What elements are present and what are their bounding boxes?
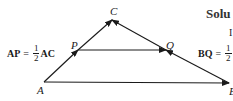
eq-bq-fraction: 1 2 (225, 44, 232, 63)
vector-qc (112, 20, 166, 50)
equation-ap: AP = 1 2 AC (7, 44, 55, 63)
vector-pc (78, 20, 112, 50)
point-label-a: A (37, 85, 44, 96)
eq-ap-den: 2 (34, 54, 39, 63)
eq-ap-rhs: AC (40, 49, 54, 59)
vector-ab (44, 82, 229, 83)
point-label-c: C (110, 6, 117, 17)
eq-ap-fraction: 1 2 (33, 44, 40, 63)
eq-bq-lhs: BQ (198, 49, 212, 59)
point-label-q: Q (166, 40, 174, 51)
eq-bq-den: 2 (226, 54, 231, 63)
eq-bq-equals: = (215, 49, 221, 59)
eq-ap-lhs: AP (7, 49, 20, 59)
point-label-p: P (71, 40, 78, 51)
eq-ap-equals: = (23, 49, 29, 59)
solution-heading: Solu (206, 6, 231, 22)
text-fragment: I (229, 28, 232, 38)
point-label-b: B (229, 86, 233, 97)
equation-bq: BQ = 1 2 (198, 44, 233, 63)
